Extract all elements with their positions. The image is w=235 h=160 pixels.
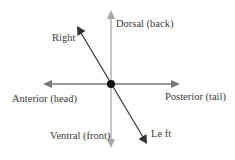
right-label: Right: [52, 33, 75, 44]
anterior-arrowhead-icon: [43, 80, 52, 88]
dorsal-arrowhead-icon: [107, 10, 115, 19]
posterior-label: Posterior (tail): [165, 92, 226, 103]
anterior-label: Anterior (head): [12, 94, 77, 105]
dorsal-label: Dorsal (back): [116, 19, 173, 30]
ventral-label: Ventral (front): [50, 131, 110, 142]
posterior-arrowhead-icon: [171, 80, 180, 88]
origin-dot: [107, 80, 115, 88]
left-label: Le ft: [151, 129, 171, 140]
